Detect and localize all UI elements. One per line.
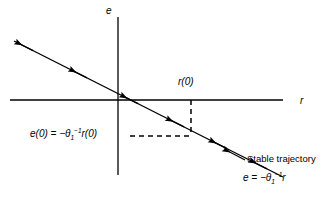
equation-lead: e = − [243, 172, 266, 183]
e-initial-superscript: −1 [74, 127, 81, 134]
trajectory-arrow-5 [210, 140, 227, 149]
trajectory-line [14, 41, 283, 177]
r-initial-label: r(0) [178, 77, 194, 87]
trajectory-equation-label: e = −θ1−1r [243, 172, 286, 186]
r-axis-label: r [300, 96, 303, 106]
stable-trajectory-leader-line [224, 149, 245, 160]
equation-tail: r [282, 172, 285, 183]
trajectory-group [14, 41, 283, 177]
phase-plane-chart [0, 0, 328, 197]
e-initial-lead: e(0) = − [30, 128, 65, 139]
trajectory-arrow-2 [70, 69, 87, 78]
trajectory-arrow-4 [167, 118, 184, 127]
equation-subscript: 1 [271, 178, 275, 185]
guide-lines-group [130, 100, 191, 136]
figure-container: e r r(0) e(0) = −θ1−1r(0) Stable traject… [0, 0, 328, 197]
e-initial-subscript: 1 [70, 134, 74, 141]
e-initial-tail: r(0) [82, 128, 98, 139]
e-axis-label: e [106, 6, 112, 16]
e-initial-label: e(0) = −θ1−1r(0) [30, 128, 97, 142]
stable-trajectory-label: Stable trajectory [247, 154, 316, 164]
leader-line-group [224, 149, 245, 160]
axes-group [10, 17, 283, 175]
trajectory-arrow-1 [16, 42, 33, 51]
